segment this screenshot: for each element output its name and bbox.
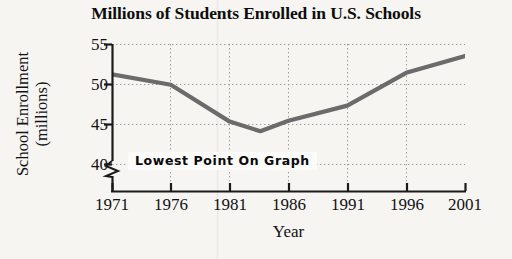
y-axis-ticks	[104, 45, 112, 165]
x-tick-label-2001: 2001	[437, 196, 493, 214]
x-axis-ticks	[113, 183, 466, 191]
x-axis-tick-labels: 1971 1976 1981 1986 1991 1996 2001	[0, 196, 512, 220]
x-tick-label-1981: 1981	[202, 196, 258, 214]
x-tick-label-1971: 1971	[84, 196, 140, 214]
x-tick-label-1991: 1991	[320, 196, 376, 214]
x-tick-label-1976: 1976	[143, 196, 199, 214]
x-tick-label-1986: 1986	[261, 196, 317, 214]
x-tick-label-1996: 1996	[379, 196, 435, 214]
lowest-point-annotation: Lowest Point On Graph	[128, 152, 317, 170]
axes-layer	[0, 0, 512, 259]
x-axis-title: Year	[112, 222, 465, 242]
chart-page: Millions of Students Enrolled in U.S. Sc…	[0, 0, 512, 259]
